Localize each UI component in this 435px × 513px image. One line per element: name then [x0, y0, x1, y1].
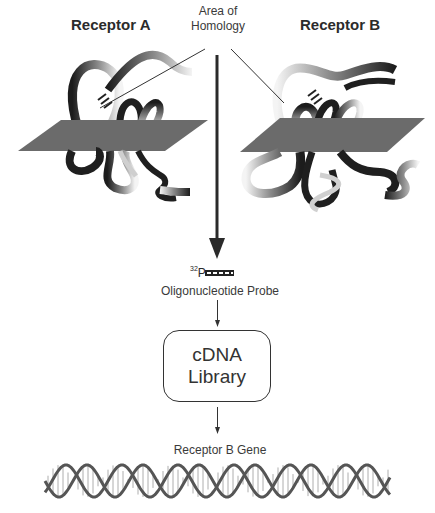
main-down-arrow [209, 55, 225, 259]
membrane-plane-a [18, 120, 208, 151]
isotope-label: 32P [190, 266, 206, 280]
cdna-library-box: cDNA Library [163, 330, 271, 402]
receptor-b-structure [240, 67, 425, 210]
isotope-symbol: P [198, 266, 206, 280]
receptor-a-title: Receptor A [71, 16, 150, 33]
receptor-b-title: Receptor B [300, 16, 380, 33]
dna-double-helix [45, 465, 390, 497]
oligonucleotide-probe-icon [205, 270, 234, 276]
receptor-b-gene-label: Receptor B Gene [160, 443, 280, 457]
area-of-homology-label: Area of Homology [168, 4, 268, 34]
library-line2: Library [188, 366, 246, 388]
isotope-mass: 32 [190, 265, 198, 272]
library-to-gene-arrow [215, 407, 220, 434]
oligonucleotide-probe-label: Oligonucleotide Probe [150, 284, 290, 298]
receptor-a-structure [18, 55, 208, 199]
area-label-line1: Area of [168, 4, 268, 19]
membrane-plane-b [240, 118, 425, 152]
probe-to-library-arrow [215, 300, 220, 327]
library-line1: cDNA [192, 344, 242, 366]
diagram-canvas [0, 0, 435, 513]
homology-leader-b [231, 49, 284, 103]
area-label-line2: Homology [168, 19, 268, 34]
